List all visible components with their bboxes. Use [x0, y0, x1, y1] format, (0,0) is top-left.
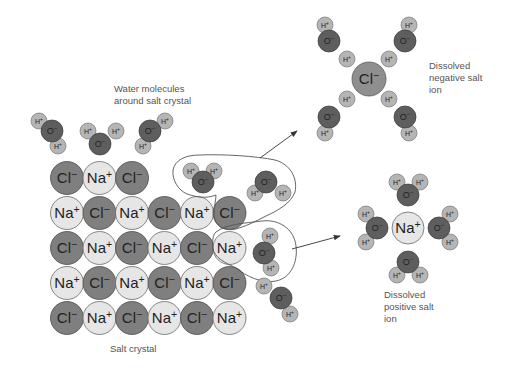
chloride-ion: Cl−	[51, 162, 84, 195]
chloride-ion: Cl−	[51, 302, 84, 335]
chloride-ion: Cl−	[148, 197, 181, 230]
hydrogen-atom: H+	[256, 278, 272, 294]
sodium-ion: Na+	[83, 162, 116, 195]
oxygen-atom: O−	[41, 120, 63, 142]
hydrogen-atom: H+	[381, 91, 397, 107]
chloride-ion: Cl−	[83, 267, 116, 300]
hydrogen-atom: H+	[339, 51, 355, 67]
oxygen-atom: O−	[139, 120, 161, 142]
oxygen-atom: O−	[397, 251, 419, 273]
arrow	[292, 236, 340, 249]
hydrogen-atom: H+	[262, 228, 278, 244]
oxygen-atom: O−	[397, 184, 419, 206]
water-molecules-label: Water molecules around salt crystal	[114, 83, 191, 106]
water-molecule: H+H+O−	[381, 17, 417, 67]
dissolved-chloride-ion: Cl−	[352, 62, 386, 96]
sodium-ion: Na+	[181, 267, 214, 300]
hydrogen-atom: H+	[381, 51, 397, 67]
chloride-ion: Cl−	[181, 232, 214, 265]
chloride-ion: Cl−	[51, 232, 84, 265]
oxygen-atom: O−	[394, 30, 416, 52]
oxygen-atom: O−	[270, 287, 292, 309]
oxygen-atom: O−	[428, 217, 450, 239]
dissolved-sodium-ion: Na+	[392, 212, 424, 244]
oxygen-atom: O−	[253, 242, 275, 264]
oxygen-atom: O−	[255, 171, 277, 193]
chloride-ion: Cl−	[148, 267, 181, 300]
chloride-ion: Cl−	[116, 302, 149, 335]
sodium-ion: Na+	[148, 232, 181, 265]
oxygen-atom: O−	[394, 106, 416, 128]
water-molecule: H+H+O−	[381, 91, 417, 141]
water-molecule: H+H+O−	[183, 163, 222, 193]
salt-dissolving-diagram: Water molecules around salt crystal Cl−N…	[0, 0, 516, 372]
hydrogen-atom: H+	[339, 91, 355, 107]
sodium-ion: Na+	[83, 232, 116, 265]
oxygen-atom: O−	[89, 133, 111, 155]
water-molecule: H+H+O−	[389, 251, 428, 283]
oxygen-atom: O−	[192, 171, 214, 193]
sodium-ion: Na+	[213, 302, 246, 335]
water-molecule: H+H+O−	[389, 174, 428, 206]
oxygen-atom: O−	[318, 30, 340, 52]
sodium-ion: Na+	[213, 232, 246, 265]
hydrogen-atom: H+	[275, 185, 291, 201]
sodium-ion: Na+	[51, 197, 84, 230]
dissolved-positive-ion-label: Dissolved positive salt ion	[384, 289, 436, 324]
sodium-ion: Na+	[116, 267, 149, 300]
dissolved-negative-ion-label: Dissolved negative salt ion	[429, 60, 485, 95]
water-molecule: H+H+O−	[358, 206, 388, 250]
water-molecule: H+H+O−	[428, 206, 458, 250]
chloride-ion: Cl−	[181, 302, 214, 335]
sodium-ion: Na+	[181, 197, 214, 230]
salt-crystal-label: Salt crystal	[110, 343, 156, 354]
water-molecule: H+H+O−	[317, 91, 355, 141]
chloride-ion: Cl−	[116, 232, 149, 265]
water-molecule: H+H+O−	[317, 17, 355, 67]
water-molecule: H+H+O−	[253, 228, 279, 276]
hydrogen-atom: H+	[108, 123, 124, 139]
oxygen-atom: O−	[366, 217, 388, 239]
chloride-ion: Cl−	[83, 197, 116, 230]
water-molecule: H+H+O−	[80, 123, 124, 155]
sodium-ion: Na+	[148, 302, 181, 335]
water-molecule: H+H+O−	[256, 278, 298, 322]
oxygen-atom: O−	[318, 106, 340, 128]
water-molecule: H+H+O−	[247, 171, 291, 201]
chloride-ion: Cl−	[116, 162, 149, 195]
water-molecule: H+H+O−	[31, 113, 66, 154]
sodium-ion: Na+	[51, 267, 84, 300]
sodium-ion: Na+	[116, 197, 149, 230]
salt-crystal-lattice: Cl−Na+Cl−Na+Cl−Na+Cl−Na+Cl−Cl−Na+Cl−Na+C…	[51, 162, 247, 335]
water-molecule: H+H+O−	[135, 113, 173, 154]
arrow	[260, 131, 297, 158]
sodium-ion: Na+	[83, 302, 116, 335]
